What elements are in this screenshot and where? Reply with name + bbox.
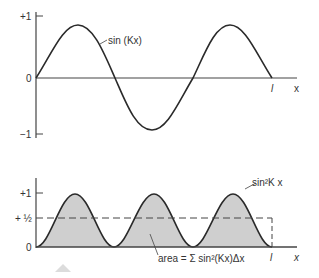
- faint-triangle-mark: [55, 264, 71, 272]
- top-x-label: x: [294, 83, 299, 94]
- top-label-minus1: −1: [20, 129, 32, 140]
- top-label-zero: 0: [26, 73, 32, 84]
- top-label-plus1: +1: [20, 11, 32, 22]
- bottom-label-zero: 0: [26, 242, 32, 253]
- top-plot: +1 0 −1 sin (Kx) l x: [20, 11, 299, 140]
- bottom-label-plus1: +1: [20, 188, 32, 199]
- bottom-plot: +1 + ½ 0 sin²K x area = Σ sin²(Kx)Δx l x: [15, 177, 300, 264]
- bottom-label-half: + ½: [15, 213, 33, 224]
- bottom-l-label: l: [270, 252, 273, 263]
- top-l-label: l: [271, 83, 274, 94]
- sin-squared-label: sin²K x: [252, 177, 283, 188]
- sin-curve-label: sin (Kx): [108, 35, 142, 46]
- diagram-canvas: +1 0 −1 sin (Kx) l x +1 + ½ 0 sin²K x ar…: [0, 0, 319, 278]
- sin-squared-area: [36, 194, 272, 247]
- bottom-x-label: x: [293, 252, 300, 263]
- area-label: area = Σ sin²(Kx)Δx: [158, 253, 245, 264]
- sin-label-leader: [100, 40, 107, 44]
